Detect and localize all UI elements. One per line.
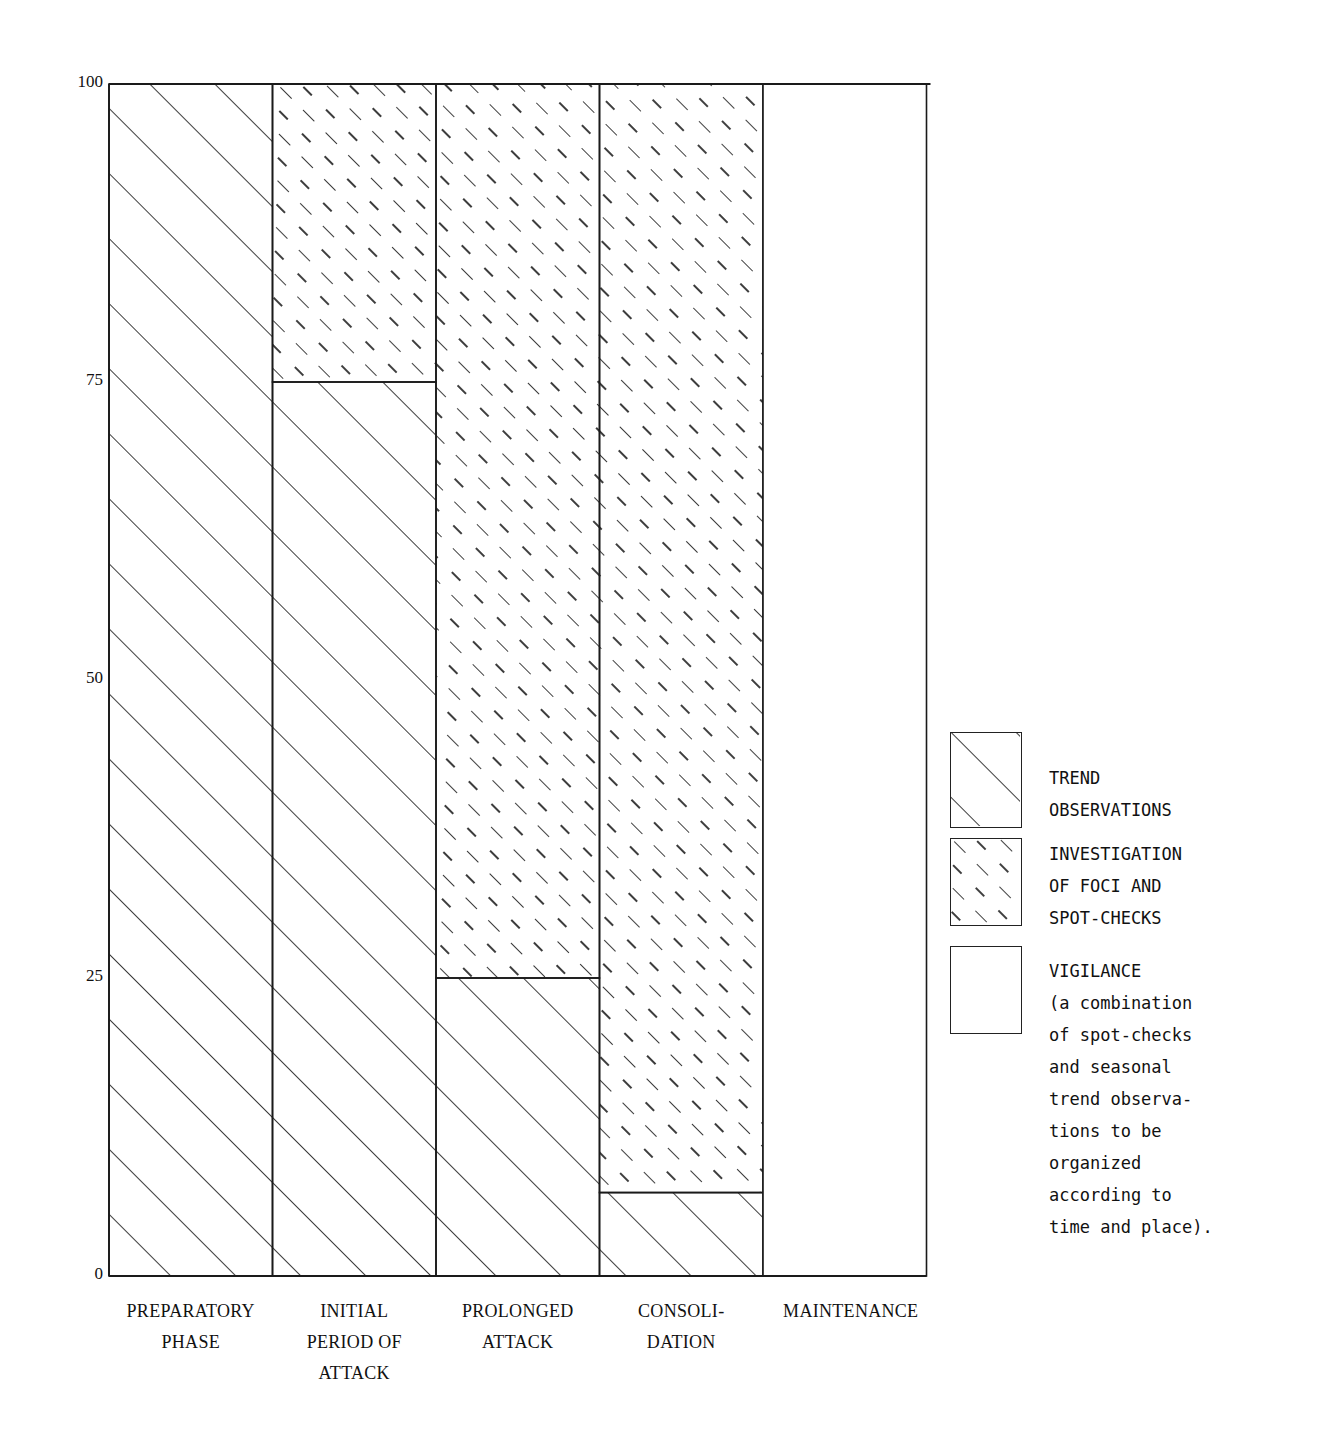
y-tick-label: 50 [53,668,103,688]
bar-segment-maintenance-blank [763,84,927,1276]
legend-swatch-investigation [950,838,1022,926]
legend-swatch-vigilance [950,946,1022,1034]
bar-segment-consolidation-solid-hatch [600,1193,764,1276]
bar-segment-prolonged-attack-solid-hatch [436,978,600,1276]
bar-segment-initial-period-of-attack-solid-hatch [273,382,437,1276]
x-category-label: PREPARATORYPHASE [105,1296,277,1358]
bar-segment-initial-period-of-attack-dashed-hatch [273,84,437,382]
y-tick-label: 100 [53,72,103,92]
legend-label-investigation: INVESTIGATIONOF FOCI ANDSPOT-CHECKS [1049,838,1182,934]
bar-segment-preparatory-phase-solid-hatch [109,84,273,1276]
legend-swatch-trend [950,732,1022,828]
legend-label-vigilance: VIGILANCE(a combinationof spot-checksand… [1049,955,1213,1243]
x-category-label: PROLONGEDATTACK [432,1296,604,1358]
x-category-label: INITIALPERIOD OFATTACK [269,1296,441,1389]
legend-label-trend: TRENDOBSERVATIONS [1049,762,1172,826]
bar-segment-consolidation-dashed-hatch [600,84,764,1193]
x-category-label: MAINTENANCE [765,1296,937,1327]
y-tick-label: 25 [53,966,103,986]
y-tick-label: 75 [53,370,103,390]
bar-segment-prolonged-attack-dashed-hatch [436,84,600,978]
bars-group [109,84,927,1276]
y-tick-label: 0 [53,1264,103,1284]
x-category-label: CONSOLI-DATION [596,1296,768,1358]
